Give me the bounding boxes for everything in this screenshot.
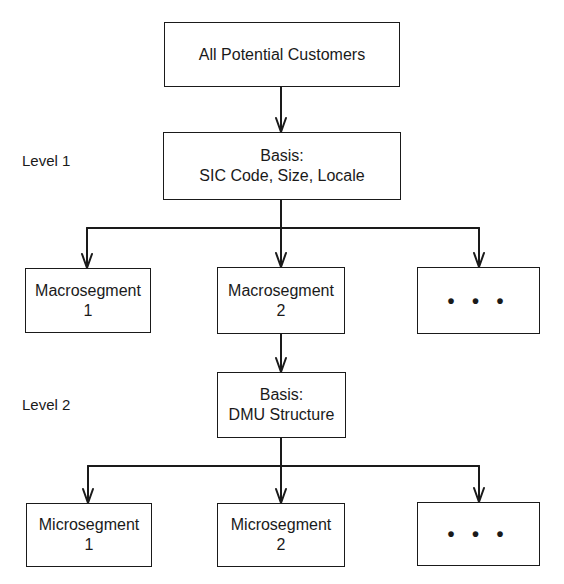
node-macrosegment-1: Macrosegment 1 (25, 268, 151, 333)
node-label-line2: 2 (277, 301, 286, 321)
node-label-line2: DMU Structure (229, 405, 335, 425)
node-label-line1: Macrosegment (228, 281, 334, 301)
node-label-line2: SIC Code, Size, Locale (199, 166, 364, 186)
node-basis-level-1: Basis: SIC Code, Size, Locale (163, 132, 401, 200)
node-macrosegment-more: • • • (417, 267, 540, 334)
node-label-line2: 1 (84, 301, 93, 321)
node-basis-level-2: Basis: DMU Structure (217, 372, 346, 438)
ellipsis-icon: • • • (447, 291, 509, 311)
node-label-line2: 1 (85, 535, 94, 555)
node-label-line2: 2 (277, 535, 286, 555)
node-label-line1: Basis: (260, 385, 304, 405)
node-all-potential-customers: All Potential Customers (164, 22, 400, 87)
node-label-line1: Microsegment (231, 515, 331, 535)
node-label-line1: Microsegment (39, 515, 139, 535)
node-microsegment-2: Microsegment 2 (217, 503, 345, 567)
node-microsegment-1: Microsegment 1 (26, 503, 152, 567)
level-1-label: Level 1 (22, 152, 70, 169)
node-label-line1: Macrosegment (35, 281, 141, 301)
node-label: All Potential Customers (199, 45, 365, 65)
ellipsis-icon: • • • (447, 524, 509, 544)
node-macrosegment-2: Macrosegment 2 (217, 267, 345, 334)
node-microsegment-more: • • • (417, 502, 540, 566)
level-2-label: Level 2 (22, 396, 70, 413)
node-label-line1: Basis: (260, 146, 304, 166)
